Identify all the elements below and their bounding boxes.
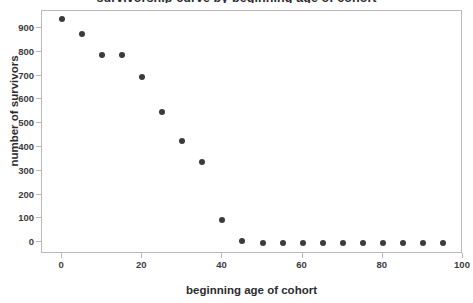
y-tick-label: 400: [18, 141, 34, 153]
data-point: [340, 240, 346, 246]
x-tick-label: 100: [454, 259, 470, 271]
data-point: [99, 52, 105, 58]
plot-frame: [41, 10, 462, 253]
data-point: [219, 217, 225, 223]
x-tick-label: 0: [58, 259, 63, 271]
data-point: [440, 240, 446, 246]
x-axis-ticks: 020406080100: [41, 253, 462, 275]
y-tick-label: 200: [18, 189, 34, 201]
data-point: [320, 240, 326, 246]
x-tick-mark: [221, 253, 222, 258]
y-tick-label: 300: [18, 165, 34, 177]
data-point: [139, 74, 145, 80]
data-point: [159, 109, 165, 115]
y-tick-label: 700: [18, 70, 34, 82]
x-tick-mark: [61, 253, 62, 258]
data-point: [260, 240, 266, 246]
chart-title: survivorship curve by beginning age of c…: [0, 0, 473, 3]
data-point: [179, 138, 185, 144]
y-tick-label: 500: [18, 117, 34, 129]
chart-figure: survivorship curve by beginning age of c…: [0, 0, 473, 303]
y-tick-label: 600: [18, 93, 34, 105]
y-tick-label: 100: [18, 212, 34, 224]
data-point: [59, 16, 65, 22]
x-tick-mark: [302, 253, 303, 258]
data-point: [199, 159, 205, 165]
x-tick-mark: [462, 253, 463, 258]
data-point: [400, 240, 406, 246]
data-point: [360, 240, 366, 246]
x-tick-mark: [141, 253, 142, 258]
data-point: [300, 240, 306, 246]
data-point: [280, 240, 286, 246]
x-tick-label: 40: [216, 259, 227, 271]
y-tick-label: 0: [29, 236, 34, 248]
x-tick-label: 20: [136, 259, 147, 271]
x-tick-label: 80: [377, 259, 388, 271]
y-tick-label: 800: [18, 46, 34, 58]
data-point: [380, 240, 386, 246]
x-tick-mark: [382, 253, 383, 258]
x-axis-title: beginning age of cohort: [41, 284, 462, 296]
data-point: [119, 52, 125, 58]
data-point: [79, 31, 85, 37]
x-tick-label: 60: [296, 259, 307, 271]
data-point: [239, 238, 245, 244]
y-axis-ticks: 0100200300400500600700800900: [0, 10, 41, 253]
data-point: [420, 240, 426, 246]
plot-area: [42, 11, 461, 252]
y-tick-label: 900: [18, 22, 34, 34]
